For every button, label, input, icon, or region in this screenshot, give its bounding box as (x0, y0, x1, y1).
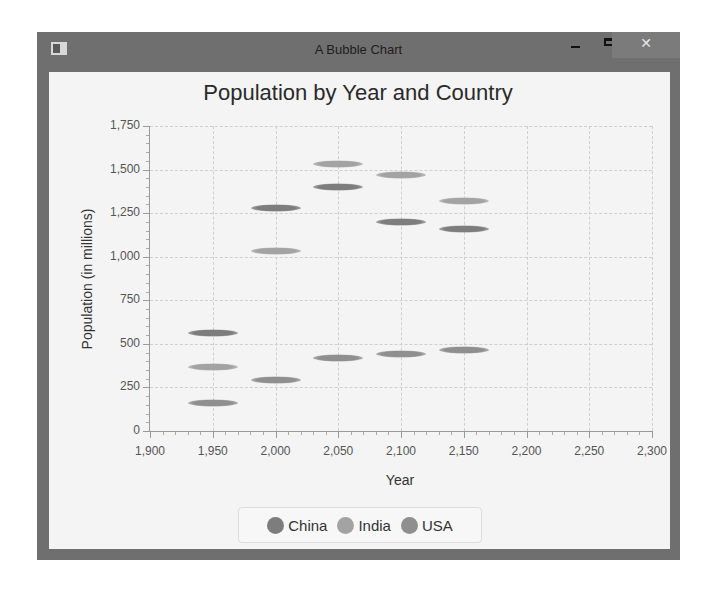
x-tick-label: 1,950 (188, 444, 238, 458)
x-tick-minor (627, 432, 628, 435)
legend-item-usa[interactable]: USA (401, 517, 453, 534)
chart-legend: ChinaIndiaUSA (238, 507, 482, 543)
bubble-usa[interactable] (251, 377, 301, 384)
y-tick-minor (146, 405, 149, 406)
y-tick-minor (146, 196, 149, 197)
x-tick-minor (501, 432, 502, 435)
y-axis-title: Population (in millions) (79, 209, 95, 350)
bubble-india[interactable] (251, 248, 301, 255)
x-tick-label: 2,100 (376, 444, 426, 458)
x-tick-minor (614, 432, 615, 435)
y-tick-label: 250 (90, 379, 140, 393)
y-tick-minor (146, 283, 149, 284)
gridline-vertical (652, 126, 653, 431)
y-tick-label: 500 (90, 336, 140, 350)
x-tick-major (527, 432, 528, 438)
bubble-china[interactable] (251, 204, 301, 211)
gridline-vertical (338, 126, 339, 431)
bubble-india[interactable] (376, 171, 426, 178)
y-tick-minor (146, 178, 149, 179)
y-tick-minor (146, 318, 149, 319)
legend-swatch-icon (337, 517, 354, 534)
bubble-usa[interactable] (188, 400, 238, 407)
y-tick-minor (146, 274, 149, 275)
y-tick-minor (146, 414, 149, 415)
bubble-usa[interactable] (439, 346, 489, 353)
x-tick-label: 2,000 (251, 444, 301, 458)
gridline-vertical (527, 126, 528, 431)
bubble-india[interactable] (439, 197, 489, 204)
x-tick-minor (426, 432, 427, 435)
y-tick-minor (146, 379, 149, 380)
y-tick-minor (146, 353, 149, 354)
legend-swatch-icon (401, 517, 418, 534)
x-tick-label: 2,250 (564, 444, 614, 458)
y-tick-minor (146, 143, 149, 144)
x-tick-label: 1,900 (125, 444, 175, 458)
y-tick-label: 1,250 (90, 205, 140, 219)
bubble-china[interactable] (439, 225, 489, 232)
bubble-usa[interactable] (376, 351, 426, 358)
chart-title: Population by Year and Country (150, 80, 566, 106)
x-tick-minor (564, 432, 565, 435)
y-tick-label: 750 (90, 292, 140, 306)
legend-item-india[interactable]: India (337, 517, 391, 534)
y-tick-minor (146, 361, 149, 362)
x-tick-label: 2,200 (502, 444, 552, 458)
y-tick-minor (146, 187, 149, 188)
app-window: A Bubble Chart ✕ Population by Year and … (37, 32, 680, 560)
y-axis-line (149, 126, 150, 432)
bubble-usa[interactable] (313, 354, 363, 361)
x-tick-major (338, 432, 339, 438)
y-tick-minor (146, 152, 149, 153)
y-tick-minor (146, 239, 149, 240)
y-tick-minor (146, 422, 149, 423)
x-tick-minor (414, 432, 415, 435)
y-tick-label: 1,000 (90, 249, 140, 263)
legend-label: USA (422, 517, 453, 534)
x-tick-minor (188, 432, 189, 435)
x-tick-minor (476, 432, 477, 435)
y-tick-minor (146, 231, 149, 232)
gridline-vertical (213, 126, 214, 431)
y-tick-major (143, 257, 149, 258)
bubble-china[interactable] (313, 184, 363, 191)
y-tick-minor (146, 204, 149, 205)
bubble-india[interactable] (188, 363, 238, 370)
y-tick-major (143, 344, 149, 345)
bubble-india[interactable] (313, 161, 363, 168)
x-tick-major (213, 432, 214, 438)
x-tick-major (652, 432, 653, 438)
x-tick-minor (577, 432, 578, 435)
legend-label: China (288, 517, 327, 534)
x-tick-minor (250, 432, 251, 435)
x-tick-minor (313, 432, 314, 435)
y-tick-minor (146, 396, 149, 397)
bubble-china[interactable] (376, 218, 426, 225)
y-tick-minor (146, 292, 149, 293)
x-tick-minor (439, 432, 440, 435)
y-tick-major (143, 387, 149, 388)
y-tick-major (143, 300, 149, 301)
x-tick-minor (225, 432, 226, 435)
x-tick-minor (489, 432, 490, 435)
x-tick-minor (388, 432, 389, 435)
x-tick-minor (301, 432, 302, 435)
x-tick-label: 2,050 (313, 444, 363, 458)
legend-item-china[interactable]: China (267, 517, 327, 534)
x-tick-minor (539, 432, 540, 435)
y-tick-minor (146, 326, 149, 327)
x-tick-minor (326, 432, 327, 435)
x-tick-minor (639, 432, 640, 435)
x-axis-title: Year (350, 472, 450, 488)
x-tick-minor (514, 432, 515, 435)
x-tick-minor (351, 432, 352, 435)
bubble-china[interactable] (188, 330, 238, 337)
legend-label: India (358, 517, 391, 534)
x-tick-minor (200, 432, 201, 435)
y-tick-label: 1,500 (90, 162, 140, 176)
y-tick-minor (146, 335, 149, 336)
x-tick-label: 2,150 (439, 444, 489, 458)
x-tick-major (401, 432, 402, 438)
x-tick-minor (363, 432, 364, 435)
